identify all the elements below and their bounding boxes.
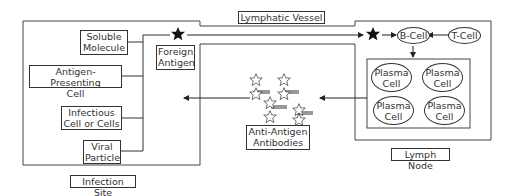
lymph-node-label: Lymph Node [391,148,450,161]
plasma-cell: Plasma Cell [422,63,463,92]
outline-star-icon [250,88,263,100]
anti-antigen-antibodies-box: Anti-Antigen Antibodies [246,125,310,150]
label-line: Plasma [376,100,410,111]
outline-star-icon [250,74,263,86]
lymphatic-vessel-label: Lymphatic Vessel [238,11,325,24]
label-line: Antigen [158,57,193,68]
infectious-cell-box: Infectious Cell or Cells [61,106,122,130]
soluble-molecule-box: Soluble Molecule [80,30,128,55]
plasma-cell: Plasma Cell [424,96,465,125]
label-line: Cell [383,78,401,89]
label-line: Antibodies [248,137,308,148]
outline-star-icon [278,74,291,86]
label-line: Molecule [82,42,126,53]
t-cell-text: T-Cell [451,30,477,41]
lymphatic-vessel-text: Lymphatic Vessel [241,12,323,23]
plasma-cell: Plasma Cell [371,63,412,92]
label-line: Anti-Antigen [248,126,308,137]
b-cell: B-Cell [397,27,430,44]
label-line: Plasma [374,67,408,78]
label-line: Cell [434,78,452,89]
t-cell: T-Cell [448,27,481,44]
label-line: Plasma [425,67,459,78]
outline-star-icon [293,114,306,126]
label-line: Cell [385,111,403,122]
viral-particle-box: Viral Particle [83,140,121,164]
filled-star-icon [366,27,380,40]
outline-star-icon [264,97,277,109]
label-line: Soluble [82,31,126,42]
label-line: Foreign [158,46,193,57]
label-line: Antigen-Presenting [31,66,120,88]
label-line: Cell [436,111,454,122]
plasma-cell: Plasma Cell [373,96,414,125]
foreign-antigen-box: Foreign Antigen [156,45,195,70]
b-cell-text: B-Cell [400,30,428,41]
lymph-node-text: Lymph Node [405,149,436,171]
antigen-presenting-cell-box: Antigen-Presenting Cell [29,65,122,88]
label-line: Cell or Cells [63,118,120,129]
outline-star-icon [264,111,277,123]
antibody-cluster [250,74,313,126]
label-line: Infectious [63,107,120,118]
label-line: Viral [85,141,119,152]
label-line: Particle [85,152,119,163]
outline-star-icon [278,88,291,100]
filled-star-icon [171,27,185,40]
label-line: Plasma [427,100,461,111]
label-line: Cell [31,88,120,99]
infection-site-label: Infection Site [70,175,136,188]
